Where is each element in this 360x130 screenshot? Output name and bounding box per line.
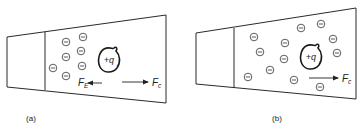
electron-icon — [333, 49, 341, 57]
electrons — [244, 20, 341, 91]
electron-icon — [280, 55, 288, 63]
electron-icon — [79, 33, 87, 41]
charge-label: +q — [104, 55, 114, 65]
panel-b: +q Fc (b) — [196, 8, 356, 123]
caption-a: (a) — [26, 114, 36, 123]
charge-label: +q — [306, 52, 316, 62]
panel-a: +q FE Fc (a) — [7, 15, 166, 123]
electron-icon — [329, 35, 337, 43]
electron-icon — [62, 72, 70, 80]
electron-icon — [62, 53, 70, 61]
electron-icon — [244, 73, 252, 81]
force-label-fc: Fc — [152, 77, 162, 89]
electron-icon — [266, 66, 274, 74]
force-label-fc: Fc — [342, 73, 352, 85]
electron-icon — [62, 38, 70, 46]
figure: +q FE Fc (a) +q — [0, 0, 360, 130]
electrons — [49, 33, 87, 80]
electron-icon — [281, 39, 289, 47]
electron-icon — [77, 47, 85, 55]
electron-icon — [317, 20, 325, 28]
electron-icon — [290, 76, 298, 84]
caption-b: (b) — [272, 114, 282, 123]
tube-outline — [7, 15, 166, 103]
electron-icon — [250, 33, 258, 41]
force-label-fe: FE — [78, 77, 89, 89]
tube-outline — [196, 8, 356, 99]
electron-icon — [297, 24, 305, 32]
electron-icon — [49, 64, 57, 72]
electron-icon — [256, 48, 264, 56]
electron-icon — [78, 62, 86, 70]
electron-icon — [316, 83, 324, 91]
